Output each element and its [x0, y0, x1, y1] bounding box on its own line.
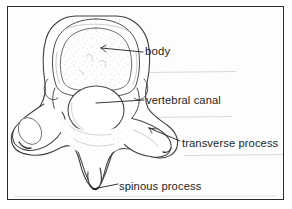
vertebral-body-inner-area: [60, 28, 131, 91]
figure-root: body vertebral canal transverse process …: [0, 0, 292, 209]
label-body: body: [145, 46, 170, 58]
label-spinous-process: spinous process: [119, 181, 201, 192]
label-transverse-process: transverse process: [182, 138, 278, 149]
label-vertebral-canal: vertebral canal: [146, 95, 221, 106]
vertebral-canal-opening: [68, 86, 124, 134]
